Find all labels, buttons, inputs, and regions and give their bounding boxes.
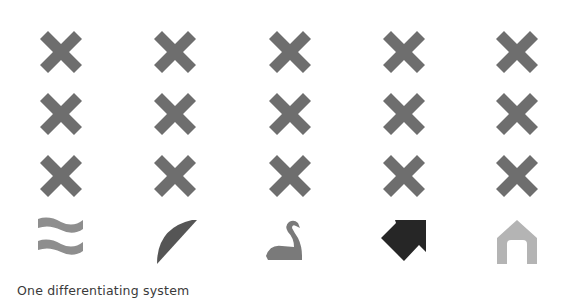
cross-icon — [36, 89, 86, 139]
cross-icon — [265, 89, 315, 139]
cross-icon — [36, 27, 86, 77]
arrow-up-left-icon — [379, 216, 429, 266]
cross-icon — [36, 151, 86, 201]
cross-icon — [379, 89, 429, 139]
symbol-grid — [0, 0, 570, 270]
swan-icon — [264, 216, 314, 266]
cross-icon — [150, 89, 200, 139]
cross-icon — [150, 27, 200, 77]
house-outline-icon — [492, 216, 542, 266]
waves-icon — [37, 216, 87, 266]
cross-icon — [492, 27, 542, 77]
cross-icon — [492, 89, 542, 139]
cross-icon — [265, 27, 315, 77]
cross-icon — [150, 151, 200, 201]
cross-icon — [379, 27, 429, 77]
cross-icon — [492, 151, 542, 201]
cross-icon — [379, 151, 429, 201]
cross-icon — [265, 151, 315, 201]
caption: One differentiating system — [17, 283, 189, 298]
leaf-arc-icon — [155, 216, 205, 266]
